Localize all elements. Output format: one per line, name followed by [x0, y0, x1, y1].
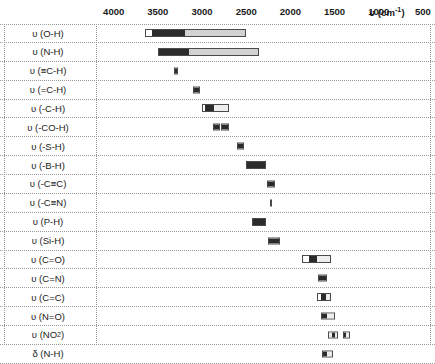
- absorption-band: [202, 104, 229, 112]
- row-label-text: υ (C=C): [31, 292, 64, 303]
- row-label-11: υ (Si-H): [0, 232, 96, 250]
- axis-tick-1500: 1500: [324, 6, 345, 17]
- table-row: υ (P-H): [0, 213, 435, 232]
- row-plot-area: [96, 100, 430, 118]
- axis-tick-3500: 3500: [147, 6, 168, 17]
- band-segment-light: [185, 30, 246, 36]
- band-segment-dark: [214, 125, 219, 130]
- row-label-10: υ (P-H): [0, 213, 96, 231]
- absorption-band: [302, 255, 331, 263]
- band-segment-dark: [152, 30, 185, 36]
- axis-tick-3000: 3000: [191, 6, 212, 17]
- table-row: υ (O-H): [0, 24, 435, 43]
- row-plot-area: [96, 43, 430, 61]
- absorption-band: [252, 218, 266, 226]
- row-plot-area: [96, 232, 430, 250]
- absorption-band: [213, 124, 220, 131]
- band-segment-pale: [317, 256, 330, 262]
- axis-tick-500: 500: [415, 6, 431, 17]
- row-plot-area: [96, 194, 430, 212]
- axis-tick-1000: 1000: [368, 6, 389, 17]
- row-label-text: υ (O-H): [32, 28, 64, 39]
- table-row: υ (N-H): [0, 43, 435, 62]
- row-label-text: υ (Si-H): [32, 235, 65, 246]
- row-label-13: υ (C=N): [0, 269, 96, 287]
- row-label-text: δ (N-H): [32, 348, 63, 359]
- band-segment-dark: [159, 49, 189, 55]
- row-label-text: υ (-S-H): [31, 141, 65, 152]
- row-label-9: υ (-C≡N): [0, 194, 96, 212]
- absorption-band: [317, 293, 331, 301]
- band-segment-pale: [214, 105, 227, 111]
- row-label-text: υ (-B-H): [31, 160, 65, 171]
- band-segment-dark: [253, 219, 265, 225]
- band-segment-dark: [268, 181, 274, 186]
- table-row: υ (≡C-H): [0, 62, 435, 81]
- band-segment-pale: [326, 294, 330, 300]
- chart-grid: υ (O-H)υ (N-H)υ (≡C-H)υ (=C-H)υ (-C-H)υ …: [0, 24, 435, 345]
- absorption-band: [343, 331, 350, 338]
- axis-tick-4000: 4000: [103, 6, 124, 17]
- axis-tick-2000: 2000: [280, 6, 301, 17]
- row-label-5: υ (-CO-H): [0, 118, 96, 136]
- row-label-7: υ (-B-H): [0, 156, 96, 174]
- row-label-text: υ (-C≡C): [30, 178, 67, 189]
- row-plot-area: [96, 81, 430, 99]
- row-label-17: δ (N-H): [0, 345, 96, 363]
- table-row: υ (-CO-H): [0, 118, 435, 137]
- row-plot-area: [96, 118, 430, 136]
- absorption-band: [321, 313, 334, 320]
- row-label-12: υ (C=O): [0, 251, 96, 269]
- row-label-text: υ (-C≡N): [30, 197, 67, 208]
- row-plot-area: [96, 137, 430, 155]
- table-row: υ (C=N): [0, 269, 435, 288]
- absorption-band: [268, 237, 279, 244]
- row-label-14: υ (C=C): [0, 288, 96, 306]
- absorption-band: [246, 161, 265, 169]
- table-row: δ (N-H): [0, 345, 435, 364]
- table-row: υ (-B-H): [0, 156, 435, 175]
- band-segment-dark: [175, 68, 177, 73]
- row-label-16: υ (NO2): [0, 326, 96, 344]
- band-segment-pale: [327, 351, 331, 356]
- row-label-text: υ (=C-H): [30, 84, 67, 95]
- row-label-text: υ (C=N): [31, 273, 64, 284]
- table-row: υ (C=C): [0, 288, 435, 307]
- row-label-text: υ (-C-H): [31, 103, 65, 114]
- row-plot-area: [96, 288, 430, 306]
- axis-unit-paren: ): [401, 7, 404, 18]
- row-plot-area: [96, 156, 430, 174]
- table-row: υ (-C-H): [0, 100, 435, 119]
- row-label-2: υ (≡C-H): [0, 62, 96, 80]
- band-segment-dark: [309, 256, 316, 262]
- row-plot-area: [96, 307, 430, 325]
- row-label-1: υ (N-H): [0, 43, 96, 61]
- band-segment-pale: [327, 314, 334, 319]
- absorption-band: [328, 331, 339, 338]
- row-label-tail: ): [61, 329, 64, 340]
- row-label-text: υ (NO: [32, 329, 57, 340]
- row-label-4: υ (-C-H): [0, 100, 96, 118]
- row-label-3: υ (=C-H): [0, 81, 96, 99]
- band-segment-dark: [222, 125, 228, 130]
- row-plot-area: [96, 175, 430, 193]
- absorption-band: [270, 199, 272, 206]
- row-label-text: υ (-CO-H): [27, 122, 69, 133]
- absorption-band: [158, 48, 260, 56]
- row-label-text: υ (≡C-H): [30, 65, 67, 76]
- chart-rows: υ (O-H)υ (N-H)υ (≡C-H)υ (=C-H)υ (-C-H)υ …: [0, 24, 435, 364]
- absorption-band: [145, 29, 247, 37]
- band-segment-dark: [238, 144, 243, 149]
- row-label-text: υ (P-H): [33, 216, 64, 227]
- axis-tick-2500: 2500: [236, 6, 257, 17]
- table-row: υ (=C-H): [0, 81, 435, 100]
- table-row: υ (NO2): [0, 326, 435, 345]
- axis-header: υ (cm-1) 4000350030002500200015001000500: [0, 0, 435, 24]
- absorption-band: [174, 67, 178, 74]
- row-label-6: υ (-S-H): [0, 137, 96, 155]
- absorption-band: [221, 124, 229, 131]
- row-label-text: υ (C=O): [31, 254, 65, 265]
- row-plot-area: [96, 62, 430, 80]
- row-label-text: υ (N-H): [32, 46, 63, 57]
- row-label-text: υ (N=O): [31, 311, 65, 322]
